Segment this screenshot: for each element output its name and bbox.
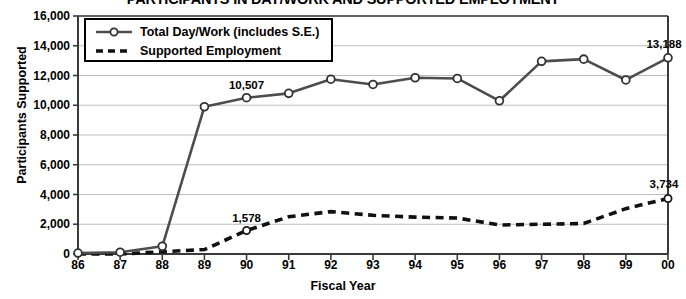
x-axis-tick-label: 97	[522, 258, 562, 272]
x-axis-tick-label: 93	[353, 258, 393, 272]
legend-label-total-day-work: Total Day/Work (includes S.E.)	[140, 25, 319, 39]
x-axis-tick-label: 99	[606, 258, 646, 272]
y-axis-tick-label: 14,000	[12, 39, 70, 53]
y-axis-tick-label: 8,000	[12, 128, 70, 142]
data-point-label: 13,188	[646, 38, 681, 50]
y-axis-tick-label: 6,000	[12, 158, 70, 172]
y-axis-tick-label: 10,000	[12, 98, 70, 112]
x-axis-tick-label: 91	[269, 258, 309, 272]
x-axis-tick-label: 92	[311, 258, 351, 272]
data-point-label: 10,507	[229, 79, 264, 91]
x-axis-tick-label: 96	[479, 258, 519, 272]
y-axis-tick-label: 16,000	[12, 9, 70, 23]
x-axis-tick-label: 87	[100, 258, 140, 272]
dashed-line-marker-icon	[94, 44, 134, 58]
legend-item-supported-employment: Supported Employment	[94, 42, 281, 60]
x-axis-tick-label: 94	[395, 258, 435, 272]
x-axis-tick-label: 00	[648, 258, 686, 272]
data-point-label: 1,578	[232, 212, 261, 224]
data-point-label: 3,734	[650, 178, 679, 190]
chart-legend: Total Day/Work (includes S.E.) Supported…	[84, 18, 333, 62]
x-axis-tick-label: 89	[184, 258, 224, 272]
series-total-day-work-markers	[74, 54, 672, 257]
chart-title: PARTICIPANTS IN DAY/WORK AND SUPPORTED E…	[0, 0, 686, 7]
x-axis-tick-label: 90	[227, 258, 267, 272]
y-axis-tick-label: 4,000	[12, 188, 70, 202]
chart-container: PARTICIPANTS IN DAY/WORK AND SUPPORTED E…	[0, 0, 686, 299]
x-axis-title: Fiscal Year	[0, 279, 686, 293]
x-axis-tick-label: 98	[564, 258, 604, 272]
legend-label-supported-employment: Supported Employment	[140, 44, 281, 58]
legend-item-total-day-work: Total Day/Work (includes S.E.)	[94, 23, 319, 41]
x-axis-tick-label: 86	[58, 258, 98, 272]
y-axis-tick-label: 2,000	[12, 217, 70, 231]
x-axis-tick-label: 88	[142, 258, 182, 272]
line-circle-marker-icon	[94, 25, 134, 39]
y-axis-tick-label: 12,000	[12, 69, 70, 83]
x-axis-tick-label: 95	[437, 258, 477, 272]
